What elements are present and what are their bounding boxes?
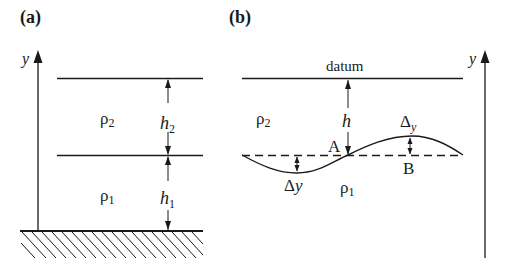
point-a-label: A	[328, 137, 341, 156]
ground-boundary	[20, 231, 203, 258]
h1-label: h1	[160, 188, 175, 211]
crest-displacement-arrow: Δy	[400, 112, 417, 155]
panel-b-y-axis: y	[467, 50, 490, 258]
panel-a: (a) y	[20, 7, 203, 258]
h2-dimension: h2	[160, 79, 175, 155]
rho2-label: ρ2	[256, 109, 270, 130]
panel-a-y-axis-label: y	[20, 50, 30, 68]
trough-displacement-arrow: Δy	[284, 157, 303, 196]
wavy-interface-curve	[242, 136, 463, 173]
panel-a-label: (a)	[20, 7, 41, 28]
arrow-up-icon	[481, 50, 490, 63]
h-label: h	[342, 111, 351, 131]
rho2-label: ρ2	[100, 109, 114, 130]
panel-a-y-axis: y	[20, 50, 43, 231]
rho1-label: ρ1	[100, 186, 114, 207]
panel-b-y-axis-label: y	[467, 50, 477, 68]
trough-delta-y-label: Δy	[284, 176, 303, 195]
h2-label: h2	[160, 113, 175, 136]
crest-delta-y-label: Δy	[400, 112, 417, 134]
h-dimension: h	[342, 80, 351, 155]
panel-b-label: (b)	[229, 7, 251, 28]
hatching	[21, 232, 203, 258]
panel-b: (b) datum h ρ2 ρ1 Δy	[229, 7, 490, 258]
point-b-label: B	[403, 159, 414, 178]
rho1-label: ρ1	[340, 178, 354, 199]
arrow-up-icon	[34, 50, 43, 63]
datum-label: datum	[326, 58, 364, 74]
diagram-canvas: (a) y	[0, 0, 510, 272]
h1-dimension: h1	[160, 156, 175, 230]
